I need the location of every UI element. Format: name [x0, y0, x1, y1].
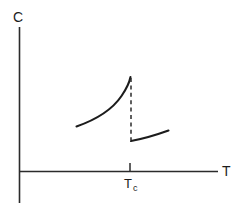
rising-branch-curve — [77, 77, 131, 127]
specific-heat-vs-temperature-figure: C T T c — [0, 0, 245, 219]
y-axis-label: C — [13, 9, 23, 25]
figure-canvas: C T T c — [0, 0, 245, 219]
critical-temperature-label: T — [124, 176, 132, 191]
x-axis-label: T — [222, 163, 231, 179]
upper-branch-curve — [131, 131, 169, 142]
critical-temperature-subscript: c — [133, 183, 138, 193]
